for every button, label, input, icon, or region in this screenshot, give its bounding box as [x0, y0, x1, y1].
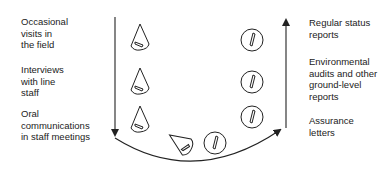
- bottom-curve-arrow: [115, 130, 280, 161]
- cone-icon: [131, 68, 149, 94]
- circle-icon: [241, 71, 263, 93]
- cone-icons: [131, 24, 196, 157]
- circle-icons: [204, 29, 263, 154]
- cone-icon: [131, 24, 149, 50]
- flow-diagram: [0, 0, 392, 172]
- circle-icon: [204, 132, 226, 154]
- circle-icon: [241, 29, 263, 51]
- circle-icon: [241, 106, 263, 128]
- cone-icon: [131, 106, 149, 132]
- cone-icon: [164, 128, 196, 158]
